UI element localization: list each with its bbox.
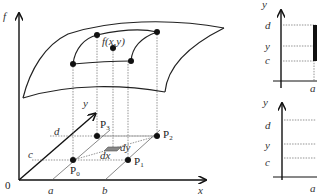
side-diagram-bottom: y d y c a xyxy=(262,96,317,194)
side-bottom-tick-y: y xyxy=(264,139,270,151)
surface-right-edge xyxy=(165,28,224,92)
patch-bottom xyxy=(73,61,131,64)
dx-label: dx xyxy=(100,149,111,161)
strip-highlight xyxy=(313,25,317,61)
side-bottom-tick-d: d xyxy=(265,119,271,131)
side-top-y-axis-label: y xyxy=(261,0,267,10)
x-tick-b: b xyxy=(102,184,108,195)
patch-right xyxy=(131,32,157,61)
point-p3: P3 xyxy=(100,118,110,132)
side-bottom-tick-a: a xyxy=(310,182,316,194)
y-tick-c: c xyxy=(28,148,33,160)
y-axis-label: y xyxy=(82,97,88,109)
point-p1: P1 xyxy=(134,155,144,169)
surface-bottom-edge xyxy=(23,87,165,98)
side-top-tick-y: y xyxy=(264,40,270,52)
x-tick-a: a xyxy=(48,184,54,195)
x-axis-label: x xyxy=(197,184,203,195)
y-axis xyxy=(19,114,95,180)
side-bottom-tick-c: c xyxy=(265,156,270,168)
side-diagram-top: y d y c a xyxy=(261,0,317,94)
f-axis-label: f xyxy=(3,10,8,22)
surface-label: f(x,y) xyxy=(102,35,125,48)
surface-top-edge xyxy=(23,22,224,98)
y-tick-d: d xyxy=(54,125,60,137)
double-integral-diagram: f y x 0 f(x,y) a b c d P0 P1 P2 P3 dx dy… xyxy=(0,0,317,195)
origin-label: 0 xyxy=(5,179,11,191)
side-top-tick-a: a xyxy=(310,82,316,94)
point-p2: P2 xyxy=(163,128,173,142)
side-top-tick-c: c xyxy=(265,54,270,66)
side-bottom-y-axis-label: y xyxy=(262,96,268,108)
main-diagram: f y x 0 f(x,y) a b c d P0 P1 P2 P3 dx dy xyxy=(3,10,224,195)
point-p0: P0 xyxy=(70,164,80,178)
dy-label: dy xyxy=(120,141,131,153)
side-top-tick-d: d xyxy=(265,19,271,31)
